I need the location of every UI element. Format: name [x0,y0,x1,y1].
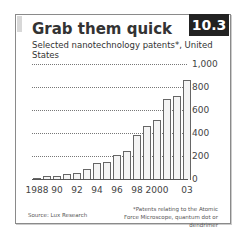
bar-2003 [183,80,191,180]
bar-1998 [133,135,141,180]
y-tick-label: 600 [192,105,209,115]
y-tick-label: 400 [192,128,209,138]
x-tick-label: 94 [91,185,102,195]
source-note: Source: Lux Research [28,212,87,218]
bar-1995 [103,162,111,180]
chart-title: Grab them quick [32,20,172,38]
bar-2001 [163,99,171,181]
x-axis-baseline [32,179,188,180]
chart-subtitle: Selected nanotechnology patents*, United… [32,40,240,60]
y-tick-label: 0 [192,174,198,184]
x-tick-label: 90 [51,185,62,195]
bar-2000 [153,120,161,180]
bar-1996 [113,155,121,180]
x-tick-label: 2000 [146,185,169,195]
gridline [32,87,187,88]
gridline [32,64,187,65]
bar-1994 [93,163,101,180]
x-tick-label: 98 [131,185,142,195]
x-tick-label: 92 [71,185,82,195]
bar-2002 [173,96,181,180]
chart-number-badge: 10.3 [189,14,229,36]
x-tick-label: 96 [111,185,122,195]
x-tick-label: 1988 [26,185,49,195]
bar-1999 [143,126,151,180]
x-tick-label: 03 [181,185,192,195]
bar-1997 [123,151,131,180]
y-tick-label: 200 [192,151,209,161]
accent-bar [17,16,22,32]
y-tick-label: 1,000 [192,59,218,69]
y-tick-label: 800 [192,82,209,92]
footnote: *Patents relating to the Atomic Force Mi… [118,205,218,229]
